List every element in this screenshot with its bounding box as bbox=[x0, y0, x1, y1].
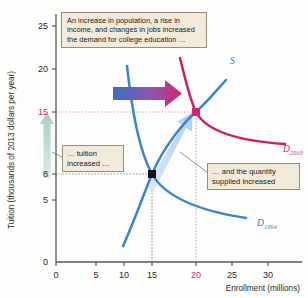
x-tick-label-10: 10 bbox=[119, 270, 129, 280]
original-equilibrium-marker bbox=[148, 170, 156, 178]
new-equilibrium-marker bbox=[192, 108, 200, 116]
callout-demand-text: An increase in population, a rise in inc… bbox=[67, 16, 202, 44]
y-tick-label-8: 8 bbox=[43, 169, 48, 179]
demand-2010-label: D bbox=[282, 144, 290, 154]
demand-1994-label: D bbox=[256, 218, 264, 228]
x-tick-label-30: 30 bbox=[263, 270, 273, 280]
y-tick-label-5: 5 bbox=[43, 195, 48, 205]
demand-2010-sublabel: 2010 bbox=[290, 149, 303, 156]
y-tick-label-25: 25 bbox=[38, 21, 48, 31]
x-tick-label-25: 25 bbox=[227, 270, 237, 280]
x-tick-label-5: 5 bbox=[93, 270, 98, 280]
y-tick-label-15: 15 bbox=[38, 107, 48, 117]
x-axis-title: Enrollment (millions) bbox=[226, 284, 300, 293]
y-axis-title: Tuition (thousands of 2013 dollars per y… bbox=[7, 71, 16, 229]
callout-quantity-text: … and the quantity supplied increased bbox=[212, 167, 295, 186]
callout-tuition-text: … tuition increased … bbox=[67, 149, 119, 168]
callout-tuition-increase: … tuition increased … bbox=[62, 145, 124, 172]
demand-1994-sublabel: 1994 bbox=[264, 223, 277, 230]
x-tick-label-15: 15 bbox=[147, 270, 157, 280]
y-tick-label-20: 20 bbox=[38, 64, 48, 74]
x-tick-label-0: 0 bbox=[53, 270, 58, 280]
y-tick-label-0: 0 bbox=[43, 257, 48, 267]
supply-curve-label: S bbox=[230, 56, 235, 66]
figure-root: 25 20 15 8 5 0 0 5 10 15 20 25 30 Tuitio… bbox=[0, 0, 308, 298]
callout-demand-increase: An increase in population, a rise in inc… bbox=[61, 12, 207, 48]
callout-quantity-supplied: … and the quantity supplied increased bbox=[207, 163, 300, 190]
x-tick-label-20: 20 bbox=[191, 270, 201, 280]
